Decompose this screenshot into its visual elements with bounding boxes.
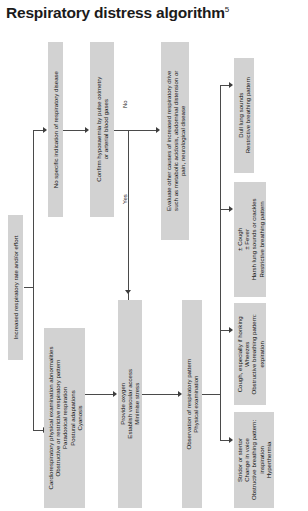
node-line: Increased respiratory rate and/or effort — [12, 236, 19, 340]
node-line: Restrictive breathing pattern — [244, 77, 251, 153]
node-line: Observation of respiratory pattern — [185, 359, 192, 450]
node-line: Change in voice — [243, 420, 250, 500]
node-line: ± Fever — [243, 199, 250, 281]
arrow-to-outcome-lower-airway — [229, 327, 233, 333]
node-line: Cardiorespiratory physical examination a… — [47, 347, 54, 490]
branch-label-no-text: No — [122, 98, 128, 108]
node-line: Wheezes — [243, 314, 250, 394]
node-outcome-wheezes: Cough, especially if honking Wheezes Obs… — [234, 303, 266, 405]
connector-no-branch — [128, 130, 156, 131]
node-confirm-hypoxaemia: Confirm hypoxaemia by pulse oximetry or … — [90, 42, 114, 217]
arrow-to-provide-oxygen-yes — [125, 290, 131, 294]
node-outcome-stridor: Stridor or stertor Change in voice Obstr… — [234, 412, 274, 508]
node-cardiorespiratory-findings: Cardiorespiratory physical examination a… — [44, 328, 85, 508]
connector-to-outcome-parenchymal — [220, 209, 229, 210]
flowchart-canvas: Increased respiratory rate and/or effort… — [0, 0, 308, 511]
node-line: Hyperthermia — [265, 420, 272, 500]
connector-confirm-out — [114, 130, 128, 131]
node-line: Restrictive breathing pattern — [257, 199, 264, 281]
arrow-to-no-specific — [43, 127, 47, 133]
node-line: Confirm hypoxaemia by pulse oximetry — [95, 77, 102, 182]
connector-to-cardioresp — [33, 430, 43, 431]
connector-observation-out — [202, 394, 220, 395]
connector-outcomes-trunk — [220, 85, 221, 440]
node-line: Stridor or stertor — [236, 420, 243, 500]
node-line: Paradoxical respiration — [61, 347, 68, 490]
node-line: Cyanosis — [75, 347, 82, 490]
connector-trunk-start — [33, 130, 34, 430]
arrow-to-outcome-upper-airway — [229, 437, 233, 443]
arrow-to-outcome-parenchymal — [229, 206, 233, 212]
node-line: expiration — [257, 314, 264, 394]
branch-label-no: No — [120, 100, 130, 122]
node-line: Physical examination — [192, 359, 199, 450]
connector-cardioresp-to-oxygen — [85, 394, 113, 395]
node-no-specific-indication: No specific indication of respiratory di… — [48, 42, 63, 217]
arrow-to-evaluate-other-causes — [156, 127, 160, 133]
node-line: Dull lung sounds — [237, 77, 244, 153]
connector-to-no-specific — [33, 130, 43, 131]
node-line: such as metabolic acidosis, abdominal di… — [171, 71, 178, 212]
node-increased-respiratory-rate: Increased respiratory rate and/or effort — [8, 215, 23, 360]
node-provide-oxygen: Provide oxygen Establish vascular access… — [118, 300, 142, 508]
node-line: Cough, especially if honking — [236, 314, 243, 394]
node-line: or arterial blood gases — [102, 77, 109, 182]
node-line: Obstructive breathing pattern: — [250, 420, 257, 500]
node-line: inspiration — [258, 420, 265, 500]
node-line: Harsh lung sounds or crackles — [250, 199, 257, 281]
connector-to-outcome-lower-airway — [220, 330, 229, 331]
node-line: Postural adaptations — [68, 347, 75, 490]
node-line: Minimise stress — [134, 369, 141, 439]
arrow-to-outcome-pleural — [229, 82, 233, 88]
connector-to-outcome-upper-airway — [220, 440, 229, 441]
connector-start-out — [24, 287, 33, 288]
node-observation-respiratory-pattern: Observation of respiratory pattern Physi… — [182, 300, 202, 508]
node-outcome-dull-lung-sounds: Dull lung sounds Restrictive breathing p… — [234, 58, 254, 173]
arrow-to-provide-oxygen — [113, 391, 117, 397]
node-line: ± Cough — [236, 199, 243, 281]
node-line: pain, neurological disease — [179, 71, 186, 212]
branch-label-yes-text: Yes — [122, 194, 128, 204]
connector-to-outcome-pleural — [220, 85, 229, 86]
node-line: Obstructive breathing pattern: — [250, 314, 257, 394]
node-outcome-harsh-lung-sounds: ± Cough ± Fever Harsh lung sounds or cra… — [234, 182, 266, 297]
branch-label-yes: Yes — [120, 196, 130, 218]
node-line: Obstructive or restrictive respiratory p… — [54, 347, 61, 490]
connector-oxygen-to-observation — [142, 394, 178, 395]
node-line: No specific indication of respiratory di… — [52, 71, 59, 188]
node-line: Evaluate other causes of increased respi… — [164, 71, 171, 212]
node-evaluate-other-causes: Evaluate other causes of increased respi… — [161, 42, 189, 240]
arrow-to-confirm-hypoxaemia — [85, 127, 89, 133]
connector-no-specific-to-confirm — [63, 130, 85, 131]
